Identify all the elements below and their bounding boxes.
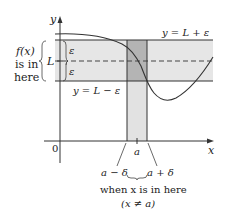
limit-label: L [46,55,54,68]
a-minus-delta-pointer [117,143,126,166]
a-plus-delta-label: a + δ [147,167,174,178]
limit-diagram: y x 0 y = L + ε y = L − ε L ε ε f(x) is … [0,0,226,217]
y-axis-label: y [49,13,57,26]
x-axis-arrow-icon [207,139,214,144]
a-minus-delta-label: a − δ [101,167,128,178]
when-x-label: when x is in here [100,184,187,195]
epsilon-top-label: ε [69,45,74,56]
x-not-a-label: (x ≠ a) [121,198,155,209]
a-plus-delta-pointer [148,143,157,166]
epsilon-bottom-label: ε [69,66,74,77]
here-label: here [14,71,39,84]
x-axis-label: x [208,144,215,157]
delta-range-brace [127,175,147,180]
a-label: a [134,146,140,157]
origin-label: 0 [52,143,58,154]
y-axis-arrow-icon [58,16,63,23]
upper-bound-label: y = L + ε [161,27,209,38]
fx-range-brace [39,41,46,81]
fx-label: f(x) [15,45,35,58]
lower-bound-label: y = L − ε [72,85,120,96]
is-in-label: is in [15,58,38,71]
